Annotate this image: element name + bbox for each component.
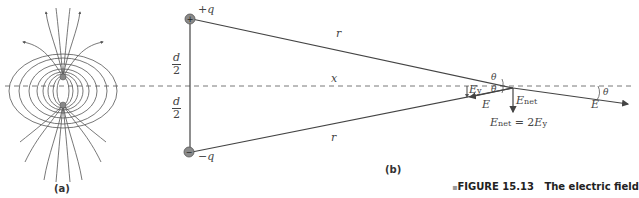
r-label-top: r: [336, 27, 341, 40]
half-separation-top: d 2: [172, 52, 181, 77]
svg-text:−: −: [186, 148, 193, 157]
x-label: x: [331, 72, 337, 85]
r-line-bottom: [192, 88, 513, 152]
negative-charge-label: −q: [198, 150, 214, 163]
e-right-label: E: [591, 98, 599, 111]
dipole-positive-charge: [60, 74, 66, 80]
angle-arc-top: [502, 79, 503, 86]
svg-text:+: +: [187, 15, 194, 24]
r-line-top: [192, 19, 513, 88]
theta-right-label: θ: [603, 87, 608, 97]
enet-label: Enet: [516, 94, 537, 107]
figure-caption: ▪FIGURE 15.13 The electric field: [452, 181, 639, 192]
positive-charge-label: +q: [198, 3, 214, 16]
ey-label: Ey: [469, 83, 482, 96]
theta-bottom-label: θ: [491, 84, 496, 94]
theta-top-label: θ: [491, 72, 496, 82]
panel-b-label: (b): [385, 164, 401, 175]
e-left-label: E: [482, 98, 490, 111]
panel-a-label: (a): [54, 183, 70, 194]
dipole-negative-charge: [60, 102, 66, 108]
dipole-field-lines: [9, 8, 117, 182]
r-label-bottom: r: [331, 131, 336, 144]
enet-equation: Enet = 2Ey: [490, 116, 547, 129]
half-separation-bottom: d 2: [172, 96, 181, 121]
